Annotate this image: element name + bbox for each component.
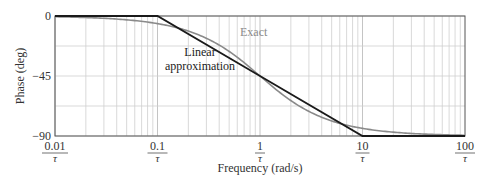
- linear-approx-label-line2: approximation: [165, 59, 235, 73]
- svg-text:100: 100: [456, 139, 474, 153]
- svg-text:τ: τ: [53, 152, 58, 164]
- y-tick-label: −45: [32, 69, 51, 83]
- x-tick-label: 10τ: [356, 139, 370, 164]
- linear-approx-label-line1: Linear: [184, 45, 215, 59]
- x-tick-label: 100τ: [455, 139, 475, 164]
- svg-text:0.01: 0.01: [45, 139, 66, 153]
- y-axis-title: Phase (deg): [13, 48, 27, 104]
- svg-text:τ: τ: [463, 152, 468, 164]
- x-tick-label: 0.1τ: [148, 139, 168, 164]
- x-axis-title: Frequency (rad/s): [218, 161, 303, 175]
- x-tick-label: 0.01τ: [42, 139, 68, 164]
- y-tick-label: 0: [45, 9, 51, 23]
- svg-text:10: 10: [357, 139, 369, 153]
- svg-text:0.1: 0.1: [150, 139, 165, 153]
- y-axis-ticks: 0−45−90: [32, 9, 51, 143]
- svg-text:τ: τ: [156, 152, 161, 164]
- svg-text:τ: τ: [361, 152, 366, 164]
- exact-label: Exact: [240, 25, 268, 39]
- phase-bode-plot: 0−45−90 0.01τ0.1τ1τ10τ100τ Exact Linear …: [0, 0, 487, 177]
- svg-text:1: 1: [257, 139, 263, 153]
